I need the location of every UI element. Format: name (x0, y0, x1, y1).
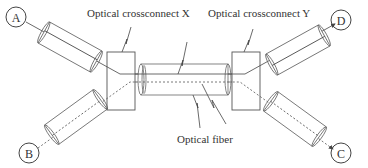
collimator-b (43, 88, 110, 146)
optical-fiber (135, 64, 232, 95)
svg-text:D: D (337, 14, 346, 28)
crossconnect-x-box (107, 40, 135, 110)
node-c: C (331, 143, 351, 163)
svg-text:C: C (337, 147, 345, 161)
leader-crossconnect-x (122, 27, 131, 52)
optical-crossconnect-diagram: A D B C (0, 0, 368, 168)
svg-text:A: A (12, 11, 21, 25)
node-b: B (19, 143, 39, 163)
node-d: D (331, 10, 351, 30)
label-crossconnect-x: Optical crossconnect X (87, 7, 190, 19)
collimator-c (262, 90, 329, 148)
svg-text:B: B (25, 147, 33, 161)
node-a: A (6, 7, 26, 27)
crossconnect-y-box (232, 52, 260, 110)
leader-crossconnect-y (244, 29, 253, 52)
collimator-d (264, 24, 332, 77)
label-crossconnect-y: Optical crossconnect Y (208, 7, 310, 19)
label-optical-fiber: Optical fiber (177, 133, 233, 145)
collimator-a (36, 21, 104, 74)
